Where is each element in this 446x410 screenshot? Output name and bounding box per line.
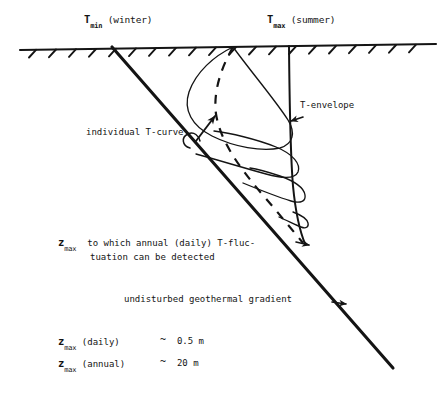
figure-canvas: Tmin (winter) Tmax (summer) T-envelope i…: [0, 0, 446, 410]
zmax-note-subscript: max: [64, 245, 76, 253]
zmax-daily-value: 0.5 m: [177, 336, 204, 346]
label-t-max: Tmax (summer): [267, 14, 335, 28]
zmax-note-text1: to which annual (daily) T-fluc-: [87, 238, 255, 248]
label-undisturbed-gradient: undisturbed geothermal gradient: [124, 295, 292, 304]
zmax-daily-approx: ~: [160, 334, 166, 345]
label-zmax-note-line1: zmax to which annual (daily) T-fluc-: [58, 237, 255, 251]
t-max-subscript: max: [273, 22, 285, 30]
zmax-annual-value: 20 m: [177, 358, 199, 368]
zmax-annual-approx: ~: [160, 356, 166, 367]
t-curve-lobe-lower: [243, 168, 305, 202]
label-individual-t-curve: individual T-curve: [86, 128, 184, 137]
label-zmax-annual: zmax (annual): [58, 358, 125, 372]
value-zmax-daily: ~ 0.5 m: [160, 336, 204, 347]
t-envelope-leader-arrow: [291, 117, 303, 121]
label-t-min: Tmin (winter): [84, 14, 152, 28]
label-t-envelope: T-envelope: [300, 101, 354, 110]
ground-surface-group: [20, 44, 436, 58]
geothermal-gradient-line: [112, 47, 393, 368]
label-zmax-note-line2: tuation can be detected: [90, 253, 215, 262]
zmax-annual-qualifier: (annual): [82, 359, 125, 369]
t-curve-lobe-lowest: [279, 212, 308, 228]
gradient-leader-arrow: [332, 302, 346, 304]
zmax-annual-subscript: max: [64, 366, 76, 374]
t-min-subscript: min: [90, 22, 102, 30]
zmax-daily-subscript: max: [64, 344, 76, 352]
zmax-daily-qualifier: (daily): [82, 337, 120, 347]
t-min-qualifier: (winter): [108, 14, 153, 25]
t-curve-lobe-upper: [187, 47, 292, 149]
right-envelope-curve: [289, 46, 306, 245]
t-curve-lobe-middle: [196, 131, 299, 178]
label-zmax-daily: zmax (daily): [58, 336, 120, 350]
t-max-qualifier: (summer): [291, 14, 336, 25]
value-zmax-annual: ~ 20 m: [160, 358, 199, 369]
